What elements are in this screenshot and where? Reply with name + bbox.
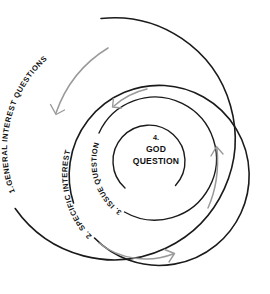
ring-2-label: 2. SPECIFIC INTEREST QUESTIONS [0,0,93,241]
core-number: 4. [153,133,159,142]
ring-1-circle [15,18,235,260]
concentric-question-diagram: 1.GENERAL INTEREST QUESTIONS 2. SPECIFIC… [0,0,270,294]
diagram-canvas: 1.GENERAL INTEREST QUESTIONS 2. SPECIFIC… [0,0,270,294]
outer-arrow-top-left [51,48,109,115]
core-label-group: 4. GOD QUESTION [133,133,179,166]
arrow-right [208,147,223,209]
core-line-1: GOD [146,144,166,154]
ring-1-label: 1.GENERAL INTEREST QUESTIONS [0,54,49,195]
core-line-2: QUESTION [133,156,179,166]
